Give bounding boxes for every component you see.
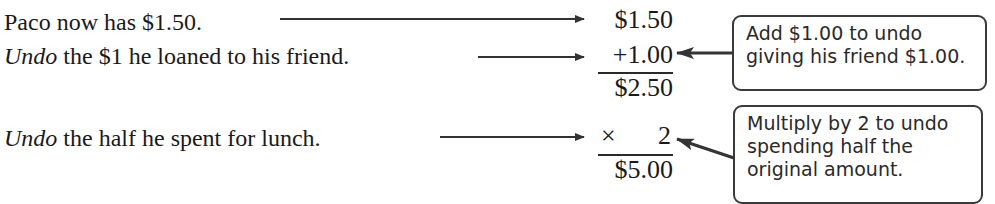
step-3-text: Undo the half he spent for lunch. [4,124,321,152]
add-amount: +1.00 [597,40,673,70]
callout-add: Add $1.00 to undo giving his friend $1.0… [732,15,987,91]
callout-2-pointer [677,139,734,158]
multiply-row: × 2 [597,121,673,151]
undo-emphasis: Undo [4,125,57,151]
undo-emphasis: Undo [4,43,57,69]
result-amount: $5.00 [597,155,673,185]
step-1-text: Paco now has $1.50. [4,8,202,36]
subtotal-amount: $2.50 [597,73,673,103]
multiply-sign: × [601,121,616,150]
step-2-text: Undo the $1 he loaned to his friend. [4,42,349,70]
multiply-value: 2 [658,121,671,151]
callout-multiply: Multiply by 2 to undo spending half the … [733,105,983,204]
start-amount: $1.50 [597,5,673,35]
